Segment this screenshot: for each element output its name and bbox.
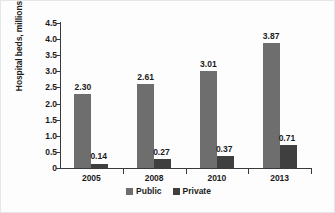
bar-private-2013 — [280, 145, 297, 168]
legend-swatch-icon — [126, 188, 133, 195]
bar-value-label: 2.30 — [75, 83, 92, 92]
y-axis-tick-label: 1.5 — [35, 115, 57, 124]
y-axis-tick-labels: 4.54.03.53.02.52.01.51.00.50 — [31, 1, 57, 213]
bar-value-label: 0.27 — [153, 148, 170, 157]
x-axis-category-label: 2008 — [145, 174, 164, 183]
y-axis-tick-label: 0.5 — [35, 148, 57, 157]
bar-chart: Hospital beds, millions 4.54.03.53.02.52… — [0, 0, 335, 213]
y-axis-tick-label: 0 — [35, 164, 57, 173]
bar-private-2010 — [217, 156, 234, 168]
legend-label: Private — [183, 187, 211, 196]
legend-swatch-icon — [173, 188, 180, 195]
x-axis-separator — [311, 169, 312, 174]
bar-value-label: 0.71 — [279, 134, 296, 143]
y-axis-tick-label: 3.0 — [35, 67, 57, 76]
bar-value-label: 3.01 — [200, 60, 217, 69]
y-axis-tick-label: 2.0 — [35, 99, 57, 108]
bar-value-label: 0.14 — [90, 152, 107, 161]
bar-value-label: 3.87 — [263, 32, 280, 41]
x-axis-category-label: 2005 — [82, 174, 101, 183]
bar-public-2013 — [263, 43, 280, 168]
y-axis-title: Hospital beds, millions — [14, 0, 24, 116]
x-axis-separator — [186, 169, 187, 174]
y-axis-tick-label: 4.5 — [35, 19, 57, 28]
x-axis-separator — [248, 169, 249, 174]
x-axis-separator — [123, 169, 124, 174]
plot-area: 2.300.142.610.273.010.373.870.71 — [60, 23, 311, 168]
legend-label: Public — [136, 187, 162, 196]
bar-private-2005 — [91, 164, 108, 169]
y-axis-tick-label: 2.5 — [35, 83, 57, 92]
bar-value-label: 2.61 — [137, 73, 154, 82]
bar-value-label: 0.37 — [216, 145, 233, 154]
y-axis-tick-label: 3.5 — [35, 51, 57, 60]
bar-public-2005 — [74, 94, 91, 168]
bar-public-2008 — [137, 84, 154, 168]
y-axis-tick-label: 4.0 — [35, 35, 57, 44]
legend-item-public[interactable]: Public — [126, 187, 162, 196]
x-axis-category-label: 2010 — [207, 174, 226, 183]
legend-item-private[interactable]: Private — [173, 187, 211, 196]
bar-private-2008 — [154, 159, 171, 168]
y-axis-tick-label: 1.0 — [35, 132, 57, 141]
bar-public-2010 — [200, 71, 217, 168]
x-axis-category-label: 2013 — [270, 174, 289, 183]
chart-legend: PublicPrivate — [1, 187, 335, 196]
